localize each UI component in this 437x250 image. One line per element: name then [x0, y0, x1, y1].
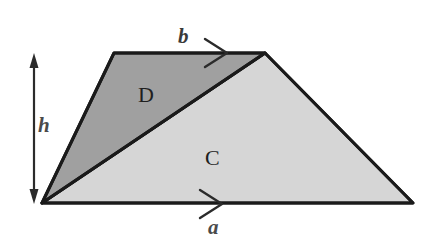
height-arrowhead-down — [30, 189, 39, 204]
dimension-label-b: b — [178, 26, 189, 47]
region-label-c: C — [205, 147, 220, 169]
dimension-label-h: h — [38, 115, 50, 136]
dimension-label-a: a — [208, 217, 219, 238]
height-arrowhead-up — [30, 53, 39, 68]
region-label-d: D — [138, 84, 154, 106]
geometry-figure: h b a D C — [0, 0, 437, 250]
figure-canvas — [0, 0, 437, 250]
